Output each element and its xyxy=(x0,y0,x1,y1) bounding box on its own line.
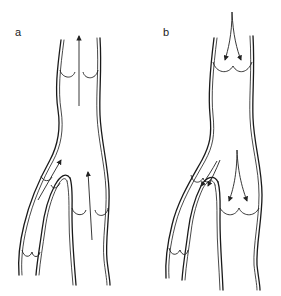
flow-arrow-down-icon xyxy=(237,150,247,201)
valve-cusp xyxy=(22,250,40,257)
flow-arrow-down-icon xyxy=(201,161,217,186)
valve-cusp xyxy=(220,208,259,215)
flow-arrow-up-icon xyxy=(88,172,92,240)
valve-cusp xyxy=(72,208,86,215)
flow-arrow-down-icon xyxy=(232,12,241,60)
vein-valve-diagram: a b xyxy=(0,0,281,296)
valve-cusp xyxy=(83,70,98,78)
panel-label-a: a xyxy=(15,26,22,38)
panel-label-b: b xyxy=(163,26,169,38)
flow-arrow-down-icon xyxy=(229,150,237,201)
valve-cusp xyxy=(60,70,75,77)
flow-arrow-down-icon xyxy=(225,12,232,60)
panel-b: b xyxy=(163,12,262,290)
panel-a: a xyxy=(15,26,110,285)
valve-cusp xyxy=(213,62,252,72)
